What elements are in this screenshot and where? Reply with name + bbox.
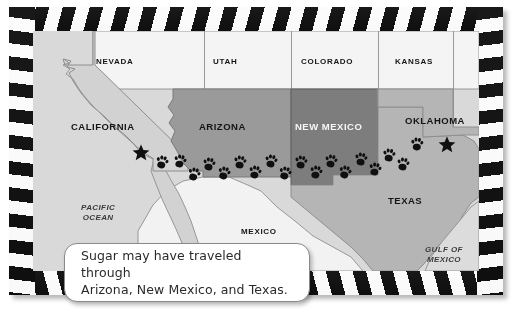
border-nv-ut	[204, 31, 205, 89]
caption-balloon: Sugar may have traveled through Arizona,…	[64, 243, 310, 302]
border-co-ks	[378, 31, 379, 89]
figure-root: NEVADA UTAH COLORADO KANSAS CALIFORNIA A…	[0, 0, 515, 312]
map-graphic	[33, 31, 479, 271]
caption-line-2: Arizona, New Mexico, and Texas.	[81, 281, 293, 298]
map-canvas: NEVADA UTAH COLORADO KANSAS CALIFORNIA A…	[33, 31, 479, 271]
frame-stripe-top	[9, 7, 503, 33]
state-new-mexico	[291, 89, 378, 185]
caption-line-1: Sugar may have traveled through	[81, 247, 293, 281]
frame-stripe-right	[477, 7, 503, 295]
state-northern-tier	[93, 31, 479, 89]
frame-stripe-left	[9, 7, 35, 295]
border-ut-co	[291, 31, 292, 89]
